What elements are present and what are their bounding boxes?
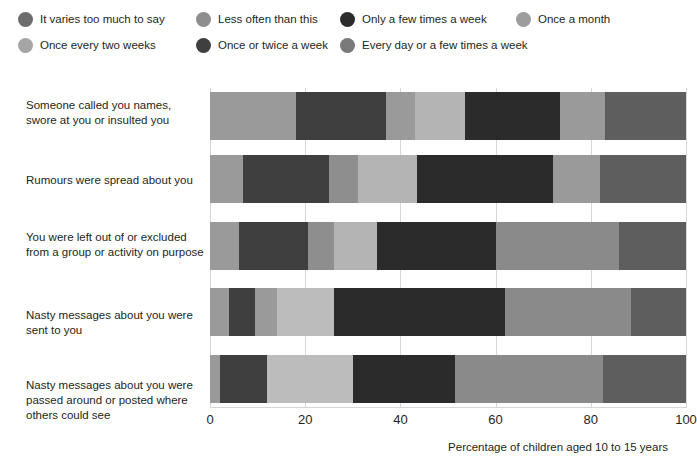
bar-segment[interactable] [334,222,377,270]
bar-segment[interactable] [220,355,268,403]
bar-segment[interactable] [210,155,243,203]
category-label: You were left out of or excluded from a … [26,230,204,260]
bar-segment[interactable] [386,92,415,140]
bar-segment[interactable] [465,92,560,140]
bar-segment[interactable] [603,355,686,403]
legend-item[interactable]: Once every two weeks [18,38,156,53]
legend-item-label: It varies too much to say [40,13,165,26]
bar-row[interactable] [210,288,686,336]
bar-segment[interactable] [255,288,276,336]
legend-item[interactable]: Only a few times a week [340,12,487,27]
bar-segment[interactable] [619,222,686,270]
bar-segment[interactable] [210,288,229,336]
legend-item-label: Only a few times a week [362,13,487,26]
bar-segment[interactable] [377,222,496,270]
bar-segment[interactable] [553,155,601,203]
category-label: Rumours were spread about you [26,173,204,188]
bar-segment[interactable] [505,288,631,336]
clipped-header-text [0,0,676,11]
bar-segment[interactable] [243,155,329,203]
legend-item[interactable]: It varies too much to say [18,12,165,27]
bar-row[interactable] [210,355,686,403]
x-axis-tick-label: 60 [488,412,502,427]
bar-segment[interactable] [560,92,605,140]
bar-segment[interactable] [358,155,418,203]
bar-segment[interactable] [329,155,358,203]
legend-swatch-icon [516,12,531,27]
category-label: Nasty messages about you were sent to yo… [26,308,204,338]
legend-item[interactable]: Once a month [516,12,610,27]
legend-item-label: Once every two weeks [40,39,156,52]
legend-item-label: Once or twice a week [218,39,328,52]
category-label: Someone called you names, swore at you o… [26,98,204,128]
legend-swatch-icon [196,12,211,27]
gridline [686,88,687,408]
bar-segment[interactable] [600,155,686,203]
legend-swatch-icon [196,38,211,53]
bar-row[interactable] [210,155,686,203]
bar-segment[interactable] [353,355,455,403]
bar-segment[interactable] [239,222,308,270]
category-label: Nasty messages about you were passed aro… [26,378,204,423]
x-axis-line [210,407,686,408]
bar-segment[interactable] [229,288,255,336]
bar-segment[interactable] [415,92,465,140]
bar-segment[interactable] [417,155,553,203]
bar-segment[interactable] [455,355,603,403]
legend-swatch-icon [18,12,33,27]
x-axis-tick-label: 40 [393,412,407,427]
legend-swatch-icon [18,38,33,53]
bar-segment[interactable] [605,92,686,140]
bar-segment[interactable] [210,222,239,270]
x-axis-tick-label: 0 [206,412,213,427]
bar-segment[interactable] [296,92,386,140]
bar-segment[interactable] [210,92,296,140]
bar-segment[interactable] [210,355,220,403]
bar-row[interactable] [210,222,686,270]
legend-item-label: Every day or a few times a week [362,39,528,52]
bar-row[interactable] [210,92,686,140]
legend-item[interactable]: Once or twice a week [196,38,328,53]
bar-segment[interactable] [496,222,620,270]
x-axis-title: Percentage of children aged 10 to 15 yea… [448,440,668,454]
chart-plot-area [210,88,686,408]
legend-swatch-icon [340,12,355,27]
legend-item-label: Once a month [538,13,610,26]
legend-item[interactable]: Every day or a few times a week [340,38,528,53]
legend-item[interactable]: Less often than this [196,12,318,27]
legend-item-label: Less often than this [218,13,318,26]
bar-segment[interactable] [631,288,686,336]
chart-legend: It varies too much to sayLess often than… [0,12,676,66]
bar-segment[interactable] [277,288,334,336]
x-axis-tick-label: 20 [298,412,312,427]
x-axis-tick-label: 80 [584,412,598,427]
bar-segment[interactable] [267,355,353,403]
bar-segment[interactable] [334,288,505,336]
bar-segment[interactable] [308,222,334,270]
legend-swatch-icon [340,38,355,53]
x-axis-tick-label: 100 [675,412,697,427]
